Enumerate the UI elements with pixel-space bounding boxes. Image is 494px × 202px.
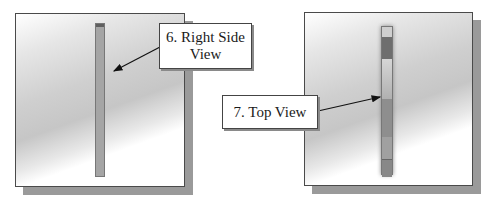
right-side-arrow	[114, 47, 160, 71]
callout-label: 7. Top View	[223, 104, 317, 121]
callout-line-1: 6. Right Side	[160, 29, 251, 46]
top-view-arrow	[318, 97, 380, 111]
right-side-view-callout: 6. Right Side View	[159, 23, 252, 69]
top-view-callout: 7. Top View	[222, 95, 318, 129]
callout-line-2: View	[160, 46, 251, 63]
